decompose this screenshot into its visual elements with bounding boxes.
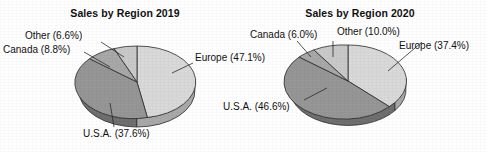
label-2019-usa: U.S.A. (37.6%) bbox=[83, 128, 150, 140]
label-2020-europe: Europe (37.4%) bbox=[399, 40, 469, 52]
label-2020-usa: U.S.A. (46.6%) bbox=[223, 101, 290, 113]
label-2020-other: Other (10.0%) bbox=[337, 26, 400, 38]
label-2019-other: Other (6.6%) bbox=[25, 30, 82, 42]
label-2019-canada: Canada (8.8%) bbox=[3, 44, 70, 56]
chart-title-2019: Sales by Region 2019 bbox=[3, 7, 247, 19]
label-2020-canada: Canada (6.0%) bbox=[250, 29, 317, 41]
chart-panel-2020: Sales by Region 2020 bbox=[243, 0, 487, 152]
label-2019-europe: Europe (47.1%) bbox=[195, 52, 265, 64]
pie-chart-figure: .ol { stroke:#2b2b2b; stroke-width:0.8; … bbox=[0, 0, 487, 152]
chart-title-2020: Sales by Region 2020 bbox=[238, 7, 482, 19]
